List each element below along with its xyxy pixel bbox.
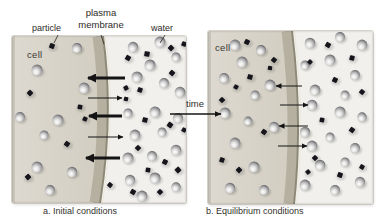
water-molecule (171, 182, 180, 191)
particle (145, 167, 150, 172)
water-molecule (325, 55, 336, 66)
water-molecule (219, 73, 229, 83)
water-molecule (310, 85, 321, 96)
water-molecule (15, 112, 25, 122)
water-molecule (173, 113, 183, 123)
water-molecule (307, 100, 318, 111)
water-molecule (341, 91, 350, 100)
particle-label: particle (32, 23, 61, 33)
water-molecule (145, 60, 156, 71)
water-molecule (300, 180, 311, 191)
caption-initial-conditions: a. Initial conditions (43, 206, 117, 216)
water-molecule (158, 128, 167, 137)
water-molecule (32, 65, 43, 76)
particle (268, 66, 273, 71)
water-molecule (123, 153, 134, 164)
water-molecule (171, 52, 180, 61)
water-molecule (330, 185, 340, 195)
caption-equilibrium-conditions: b. Equilibrium conditions (206, 206, 304, 216)
water-molecule (357, 112, 366, 121)
water-molecule (67, 167, 77, 177)
water-molecule (340, 157, 349, 166)
water-molecule (53, 115, 64, 126)
cell-label-equilibrium: cell (215, 43, 230, 53)
water-molecule (125, 175, 135, 185)
plasma-membrane-label: plasma membrane (59, 7, 143, 31)
particle (144, 51, 150, 57)
water-molecule (123, 108, 132, 117)
equilibrium-conditions-image (208, 31, 373, 204)
water-molecule (355, 177, 365, 187)
water-molecule (244, 117, 253, 126)
water-molecule (45, 185, 55, 195)
water-molecule (230, 40, 241, 51)
water-molecule (357, 40, 368, 51)
water-molecule (150, 107, 161, 118)
water-molecule (307, 141, 318, 152)
diffusion-figure: plasma membrane particle water cell cell… (0, 0, 383, 224)
panel-equilibrium-conditions (208, 31, 373, 204)
water-molecule (147, 151, 157, 161)
water-molecule (326, 133, 335, 142)
particle (77, 104, 82, 109)
water-molecule (225, 183, 235, 193)
time-label: time (177, 99, 213, 109)
water-molecule (305, 38, 316, 49)
water-molecule (237, 57, 248, 68)
water-molecule (79, 83, 90, 94)
water-molecule (335, 32, 345, 42)
water-molecule (130, 130, 141, 141)
water-molecule (132, 72, 143, 83)
water-molecule (265, 80, 276, 91)
water-molecule (39, 130, 48, 139)
initial-conditions-image (12, 36, 186, 203)
water-molecule (256, 45, 266, 55)
particle (319, 117, 324, 122)
water-molecule (220, 108, 231, 119)
water-molecule (300, 127, 310, 137)
cell-label-initial: cell (27, 50, 42, 60)
plasma-membrane-label-line2: membrane (59, 19, 143, 31)
water-molecule (269, 122, 279, 132)
water-molecule (159, 78, 169, 88)
plasma-membrane-label-line1: plasma (59, 7, 143, 19)
water-molecule (249, 162, 260, 173)
water-molecule (230, 138, 241, 149)
water-molecule (350, 143, 360, 153)
water-molecule (350, 70, 360, 80)
water-molecule (259, 185, 269, 195)
water-molecule (171, 145, 182, 156)
water-molecule (175, 87, 186, 98)
water-label: water (151, 23, 173, 33)
water-molecule (72, 43, 82, 53)
water-molecule (250, 90, 259, 99)
panel-initial-conditions (12, 36, 186, 203)
water-molecule (32, 162, 43, 173)
water-molecule (155, 37, 166, 48)
water-molecule (335, 107, 346, 118)
water-molecule (128, 42, 138, 52)
